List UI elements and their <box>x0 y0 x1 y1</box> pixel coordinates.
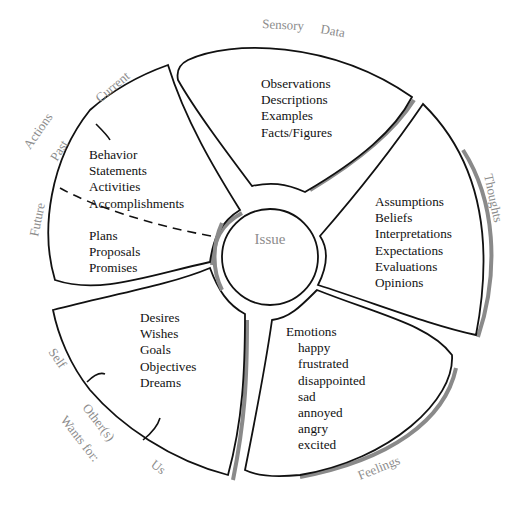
feelings-items: Emotions happy frustrated disappointed s… <box>286 324 365 454</box>
list-item: Expectations <box>375 243 452 259</box>
list-item: Descriptions <box>261 92 332 108</box>
list-item: Statements <box>89 163 184 179</box>
list-item: angry <box>286 421 365 437</box>
actions-future-items: Plans Proposals Promises <box>89 228 140 277</box>
list-item: Beliefs <box>375 210 452 226</box>
list-item: Assumptions <box>375 194 452 210</box>
list-item: Examples <box>261 108 332 124</box>
list-item: excited <box>286 437 365 453</box>
sub-label-future: Future <box>26 201 48 238</box>
sub-label-us: Us <box>148 457 169 478</box>
list-item: happy <box>286 340 365 356</box>
list-item: Proposals <box>89 244 140 260</box>
list-item: Behavior <box>89 147 184 163</box>
list-item: Plans <box>89 228 140 244</box>
list-item: frustrated <box>286 356 365 372</box>
category-label-actions: Actions <box>20 110 55 152</box>
list-item: Desires <box>140 310 196 326</box>
wants-items: Desires Wishes Goals Objectives Dreams <box>140 310 196 391</box>
list-item: Wishes <box>140 326 196 342</box>
category-label-data: Data <box>319 21 346 40</box>
list-item: Observations <box>261 76 332 92</box>
actions-past-items: Behavior Statements Activities Accomplis… <box>89 147 184 212</box>
hub-label: Issue <box>255 231 286 247</box>
list-item: Interpretations <box>375 226 452 242</box>
list-item: Goals <box>140 342 196 358</box>
list-item: Accomplishments <box>89 196 184 212</box>
list-item: sad <box>286 389 365 405</box>
list-item: Dreams <box>140 375 196 391</box>
list-item: Activities <box>89 179 184 195</box>
thoughts-items: Assumptions Beliefs Interpretations Expe… <box>375 194 452 291</box>
category-label-sensory: Sensory <box>262 16 305 33</box>
list-item: annoyed <box>286 405 365 421</box>
list-item: Objectives <box>140 359 196 375</box>
list-item: Facts/Figures <box>261 125 332 141</box>
list-item: Opinions <box>375 275 452 291</box>
emotions-heading: Emotions <box>286 324 365 340</box>
list-item: Evaluations <box>375 259 452 275</box>
sensory-data-items: Observations Descriptions Examples Facts… <box>261 76 332 141</box>
list-item: disappointed <box>286 373 365 389</box>
list-item: Promises <box>89 260 140 276</box>
